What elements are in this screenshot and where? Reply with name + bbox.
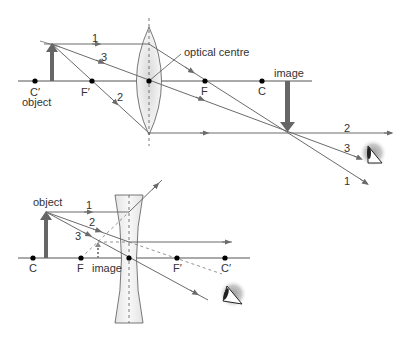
f-label: F (201, 85, 208, 97)
optical-centre-label: optical centre (184, 46, 249, 58)
c-label: C (258, 85, 266, 97)
point-c-prime (32, 78, 37, 83)
diverging-lens-diagram: object C F image F′ C′ 1 2 3 (18, 180, 250, 323)
ray-2-exit-label: 2 (344, 122, 350, 134)
converging-lens-diagram: optical centre image C′ object F′ F C 1 … (18, 18, 392, 187)
image-arrow (280, 81, 295, 132)
ray-3-exit-label: 3 (344, 142, 350, 154)
f-prime-label: F′ (81, 86, 90, 98)
ray-1-exit-label: 1 (344, 175, 350, 187)
ray-1-refracted (149, 44, 368, 184)
ray-2-label: 2 (117, 91, 123, 103)
point-f-prime-2 (174, 255, 179, 260)
point-f-prime (89, 78, 94, 83)
c-label-2: C (29, 262, 37, 274)
optical-centre-point-2 (126, 255, 131, 260)
ray-2-incident-2 (46, 212, 129, 242)
eye-icon-2 (219, 280, 247, 308)
point-f (202, 78, 207, 83)
object-arrow (46, 43, 58, 81)
eye-icon (359, 139, 387, 167)
point-f-2 (78, 255, 83, 260)
object-label-2: object (33, 196, 62, 208)
optics-diagram: optical centre image C′ object F′ F C 1 … (0, 0, 410, 343)
f-prime-label-2: F′ (173, 262, 182, 274)
point-c-2 (30, 255, 35, 260)
point-c-prime-2 (222, 255, 227, 260)
f-label-2: F (77, 262, 84, 274)
virtual-image-arrow (95, 242, 101, 258)
image-label-2: image (92, 262, 122, 274)
image-label: image (274, 67, 304, 79)
ray-2-label-2: 2 (89, 216, 95, 228)
ray-3-label: 3 (101, 51, 107, 63)
point-c (259, 78, 264, 83)
ray-1-label: 1 (92, 32, 98, 44)
ray-1-label-2: 1 (86, 199, 92, 211)
object-arrow-2 (40, 211, 52, 258)
optical-centre-point (146, 78, 151, 83)
object-label: object (22, 96, 51, 108)
ray-3-label-2: 3 (75, 230, 81, 242)
c-prime-label-2: C′ (221, 262, 231, 274)
